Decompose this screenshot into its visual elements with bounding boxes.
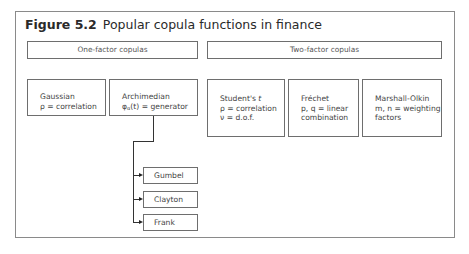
connector-horizontal xyxy=(133,141,154,142)
figure-title: Figure 5.2Popular copula functions in fi… xyxy=(25,17,322,32)
figure-caption: Popular copula functions in finance xyxy=(103,17,322,32)
archimedian-param: φα(t) = generator xyxy=(122,102,197,114)
student-t-correlation: ρ = correlation xyxy=(220,104,284,114)
student-t-node: Student's t ρ = correlation ν = d.o.f. xyxy=(207,79,285,137)
frechet-param-line2: combination xyxy=(301,113,358,123)
student-t-dof: ν = d.o.f. xyxy=(220,113,284,123)
marshall-olkin-node: Marshall-Olkin m, n = weighting factors xyxy=(362,79,442,137)
two-factor-header-label: Two-factor copulas xyxy=(290,45,359,54)
gumbel-node: Gumbel xyxy=(143,167,198,184)
marshall-olkin-param-line1: m, n = weighting xyxy=(375,104,441,114)
gaussian-node: Gaussian ρ = correlation xyxy=(27,79,106,116)
one-factor-header: One-factor copulas xyxy=(27,41,198,59)
connector-vertical-top xyxy=(153,116,154,142)
frechet-name: Fréchet xyxy=(301,94,358,104)
clayton-node: Clayton xyxy=(143,191,198,208)
frank-label: Frank xyxy=(154,218,175,227)
frechet-node: Fréchet p, q = linear combination xyxy=(288,79,359,137)
connector-vertical-main xyxy=(133,141,134,223)
frechet-param-line1: p, q = linear xyxy=(301,104,358,114)
student-t-name: Student's t xyxy=(220,94,284,104)
gumbel-label: Gumbel xyxy=(154,171,184,180)
clayton-label: Clayton xyxy=(154,195,183,204)
gaussian-param: ρ = correlation xyxy=(40,102,105,112)
archimedian-node: Archimedian φα(t) = generator xyxy=(109,79,198,116)
gaussian-name: Gaussian xyxy=(40,92,105,102)
marshall-olkin-param-line2: factors xyxy=(375,113,441,123)
two-factor-header: Two-factor copulas xyxy=(207,41,442,59)
one-factor-header-label: One-factor copulas xyxy=(77,45,147,54)
marshall-olkin-name: Marshall-Olkin xyxy=(375,94,441,104)
figure-label: Figure 5.2 xyxy=(25,17,97,32)
frank-node: Frank xyxy=(143,214,198,231)
archimedian-name: Archimedian xyxy=(122,92,197,102)
